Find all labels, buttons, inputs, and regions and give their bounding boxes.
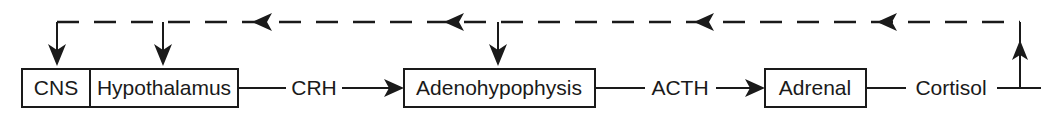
link-adrenal-to-cortisol: Cortisol — [866, 76, 1041, 99]
mediator-label-acth: ACTH — [651, 76, 708, 99]
link-hypothalamus-to-adenohypophysis: CRH — [238, 76, 404, 99]
adrenal-box: Adrenal — [765, 69, 866, 107]
node-label-adrenal: Adrenal — [779, 76, 851, 99]
feedback-branch-to-hypothalamus — [154, 22, 172, 66]
feedback-branch-to-adenohypophysis — [489, 22, 507, 66]
feedback-arrowhead-4-icon — [877, 13, 897, 31]
adenohypophysis-box: Adenohypophysis — [404, 69, 595, 107]
mediator-label-cortisol: Cortisol — [915, 76, 986, 99]
feedback-arrowhead-1-icon — [252, 13, 272, 31]
node-label-adenohypophysis: Adenohypophysis — [416, 76, 582, 99]
feedback-arrowhead-2-icon — [444, 13, 464, 31]
node-label-cns: CNS — [34, 76, 78, 99]
cortisol-feedback-riser — [1012, 22, 1028, 88]
feedback-arrowhead-3-icon — [694, 13, 714, 31]
cns-hypothalamus-box: CNS Hypothalamus — [22, 69, 238, 107]
node-label-hypothalamus: Hypothalamus — [97, 76, 231, 99]
link-adenohypophysis-to-adrenal: ACTH — [595, 76, 765, 99]
hpa-axis-canvas: CNS Hypothalamus CRH Adenohypophysis ACT… — [0, 0, 1041, 120]
hpa-axis-diagram: CNS Hypothalamus CRH Adenohypophysis ACT… — [0, 0, 1041, 120]
feedback-branch-to-cns — [48, 22, 66, 66]
mediator-label-crh: CRH — [291, 76, 337, 99]
